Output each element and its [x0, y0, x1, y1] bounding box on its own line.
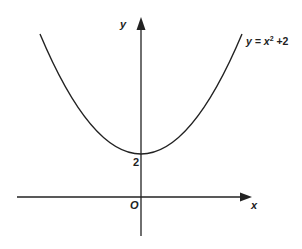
y-axis-arrow-icon [137, 17, 146, 30]
x-axis-label: x [250, 199, 258, 211]
parabola-diagram: y x O 2 y = x2 +2 [0, 0, 302, 249]
y-axis-label: y [119, 18, 127, 30]
origin-label: O [130, 199, 139, 211]
curve-equation-label: y = x2 +2 [245, 35, 289, 47]
y-intercept-label: 2 [133, 156, 139, 168]
